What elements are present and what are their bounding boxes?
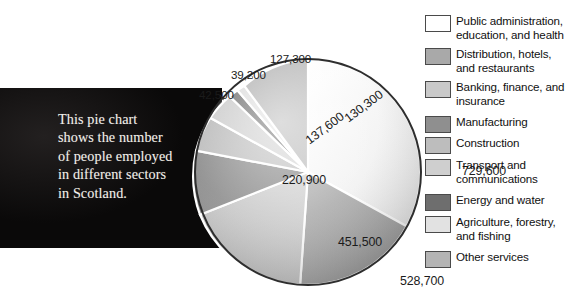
legend-label-other-services: Other services [456,250,529,264]
legend-item-distribution[interactable]: Distribution, hotels, and restaurants [425,47,551,74]
pie-chart: 729,600 528,700 451,500 220,900 137,600 … [190,52,430,293]
pie-value-label-agriculture: 39,200 [231,68,266,81]
chart-legend: Public administration, education, and he… [425,8,582,293]
pie-value-label-manufacturing: 220,900 [282,173,326,187]
legend-label-transport: Transport and communications [456,158,538,185]
legend-swatch-distribution [425,48,451,65]
pie-value-label-energy-water: 42,500 [199,88,234,101]
legend-swatch-energy-water [425,194,451,211]
legend-swatch-banking [425,81,451,98]
legend-label-manufacturing: Manufacturing [456,115,528,129]
legend-swatch-transport [425,159,451,176]
caption-box: This pie chart shows the number of peopl… [0,88,222,248]
pie-value-label-banking: 451,500 [338,235,382,249]
legend-item-construction[interactable]: Construction [425,136,519,154]
legend-label-agriculture: Agriculture, forestry, and fishing [456,215,556,242]
legend-swatch-agriculture [425,216,451,233]
legend-label-banking: Banking, finance, and insurance [456,80,564,107]
legend-item-banking[interactable]: Banking, finance, and insurance [425,80,564,107]
legend-item-energy-water[interactable]: Energy and water [425,193,544,211]
legend-label-energy-water: Energy and water [456,193,544,207]
legend-item-other-services[interactable]: Other services [425,250,529,268]
legend-swatch-construction [425,137,451,154]
chart-page: This pie chart shows the number of peopl… [0,0,582,293]
legend-item-manufacturing[interactable]: Manufacturing [425,115,528,133]
legend-item-agriculture[interactable]: Agriculture, forestry, and fishing [425,215,556,242]
legend-swatch-manufacturing [425,116,451,133]
legend-label-distribution: Distribution, hotels, and restaurants [456,47,551,74]
legend-swatch-other-services [425,251,451,268]
legend-item-public-administration[interactable]: Public administration, education, and he… [425,14,564,41]
pie-value-label-other-services: 127,300 [270,52,311,65]
legend-label-public-administration: Public administration, education, and he… [456,14,564,41]
legend-label-construction: Construction [456,136,519,150]
legend-item-transport[interactable]: Transport and communications [425,158,538,185]
legend-swatch-public-administration [425,15,451,32]
